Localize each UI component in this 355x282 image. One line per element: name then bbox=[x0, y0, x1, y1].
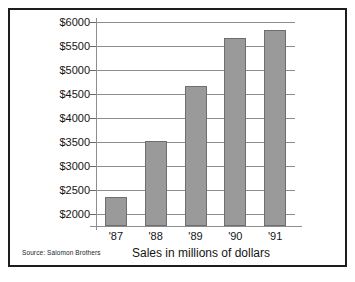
x-axis-tick-label: '91 bbox=[255, 230, 295, 242]
x-axis-title: Sales in millions of dollars bbox=[96, 246, 306, 260]
x-axis-tick-label: '87 bbox=[96, 230, 136, 242]
x-axis-tick-label: '89 bbox=[176, 230, 216, 242]
y-axis-tick-label: $6000 bbox=[34, 17, 90, 28]
x-axis-tick-label: '88 bbox=[136, 230, 176, 242]
source-note: Source: Salomon Brothers bbox=[22, 249, 101, 256]
x-axis-tick-label: '90 bbox=[215, 230, 255, 242]
y-axis-tick-label: $4500 bbox=[34, 89, 90, 100]
y-axis-tick-label: $3000 bbox=[34, 161, 90, 172]
y-axis-tick-labels: $2000$2500$3000$3500$4000$4500$5000$5500… bbox=[32, 22, 90, 226]
bar-series bbox=[96, 22, 295, 226]
bar bbox=[224, 38, 246, 226]
bar bbox=[105, 197, 127, 226]
bar bbox=[185, 86, 207, 226]
x-axis-tick-labels: '87'88'89'90'91 bbox=[96, 230, 295, 246]
bar bbox=[264, 30, 286, 226]
y-axis-tick-label: $3500 bbox=[34, 137, 90, 148]
y-axis-tick-label: $5500 bbox=[34, 41, 90, 52]
chart-figure: $2000$2500$3000$3500$4000$4500$5000$5500… bbox=[0, 0, 355, 282]
y-axis-tick-label: $4000 bbox=[34, 113, 90, 124]
y-axis-tick-label: $2000 bbox=[34, 209, 90, 220]
x-axis-line bbox=[90, 226, 302, 227]
y-axis-tick-label: $2500 bbox=[34, 185, 90, 196]
y-axis-tick-label: $5000 bbox=[34, 65, 90, 76]
bar bbox=[145, 141, 167, 226]
